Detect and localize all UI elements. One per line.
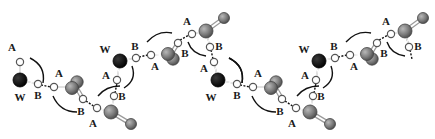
hydrogen-atom — [292, 104, 299, 111]
label-acceptor: A — [200, 62, 208, 74]
label-water: W — [100, 43, 111, 55]
heavy-atom — [361, 48, 374, 61]
hydrogen-atom — [373, 39, 380, 46]
heavy-atom — [303, 105, 317, 119]
label-donor: B — [181, 47, 189, 59]
hydrogen-atom — [233, 80, 240, 87]
label-donor: B — [131, 40, 139, 52]
hydrogen-bond — [240, 85, 250, 87]
interaction-arc — [53, 96, 77, 112]
water-oxygen-atom — [113, 54, 127, 68]
label-acceptor: A — [89, 117, 97, 129]
hydrogen-atom — [405, 43, 412, 50]
hydrogen-atom — [188, 30, 195, 37]
heavy-atom — [418, 13, 429, 24]
molecular-chain-diagram: AWBABABAWBABABAWBABABAWBABAB — [0, 0, 435, 139]
hydrogen-atom — [16, 58, 23, 65]
hydrogen-atom — [132, 54, 139, 61]
hydrogen-atom — [174, 39, 181, 46]
interaction-arc — [346, 32, 371, 42]
hydrogen-bond — [314, 83, 316, 93]
label-acceptor: A — [55, 67, 63, 79]
label-donor: B — [276, 105, 284, 117]
hydrogen-atom — [79, 95, 86, 102]
label-donor: B — [330, 40, 338, 52]
water-oxygen-atom — [13, 73, 27, 87]
interaction-arc — [124, 66, 133, 88]
label-donor: B — [77, 105, 85, 117]
hydrogen-atom — [387, 30, 394, 37]
heavy-atom — [325, 119, 336, 130]
label-acceptor: A — [8, 41, 16, 53]
interaction-arc — [252, 96, 276, 112]
hydrogen-atom — [309, 92, 316, 99]
hydrogen-bond — [139, 55, 148, 57]
hydrogen-atom — [147, 51, 154, 58]
heavy-atom — [265, 82, 278, 95]
hydrogen-bond — [180, 35, 189, 40]
label-acceptor: A — [102, 69, 110, 81]
label-donor: B — [380, 47, 388, 59]
heavy-atom — [162, 48, 175, 61]
label-donor: B — [215, 40, 223, 52]
hydrogen-atom — [113, 76, 120, 83]
water-oxygen-atom — [211, 73, 225, 87]
label-acceptor: A — [288, 117, 296, 129]
hydrogen-atom — [331, 54, 338, 61]
hydrogen-atom — [346, 51, 353, 58]
label-acceptor: A — [151, 60, 159, 72]
label-donor: B — [118, 90, 126, 102]
interaction-arc — [387, 42, 405, 56]
hydrogen-atom — [206, 43, 213, 50]
label-donor: B — [317, 90, 325, 102]
hydrogen-atom — [210, 58, 217, 65]
interaction-arc — [188, 42, 206, 56]
hydrogen-atom — [249, 83, 256, 90]
interaction-arc — [147, 32, 172, 42]
water-oxygen-atom — [312, 54, 326, 68]
label-water: W — [15, 91, 26, 103]
label-donor: B — [233, 89, 241, 101]
hydrogen-bond — [211, 50, 213, 59]
hydrogen-atom — [93, 104, 100, 111]
interaction-arc — [323, 66, 332, 88]
interaction-arc — [229, 58, 242, 83]
label-acceptor: A — [382, 15, 390, 27]
hydrogen-atom — [110, 92, 117, 99]
label-acceptor: A — [350, 60, 358, 72]
heavy-atom — [66, 82, 79, 95]
label-water: W — [206, 91, 217, 103]
label-acceptor: A — [254, 67, 262, 79]
heavy-atom — [219, 13, 230, 24]
hydrogen-bond — [379, 35, 388, 40]
hydrogen-bond — [338, 55, 347, 57]
label-donor: B — [34, 89, 42, 101]
hydrogen-atom — [34, 80, 41, 87]
hydrogen-bond — [41, 85, 51, 87]
label-acceptor: A — [183, 15, 191, 27]
heavy-atom — [126, 119, 137, 130]
hydrogen-atom — [312, 76, 319, 83]
label-water: W — [299, 43, 310, 55]
hydrogen-bond — [410, 50, 412, 59]
hydrogen-atom — [50, 83, 57, 90]
interaction-arc — [30, 58, 43, 83]
hydrogen-atom — [278, 95, 285, 102]
hydrogen-bond — [115, 83, 117, 93]
heavy-atom — [199, 24, 213, 38]
label-donor: B — [414, 40, 422, 52]
heavy-atom — [398, 24, 412, 38]
heavy-atom — [104, 105, 118, 119]
label-acceptor: A — [301, 69, 309, 81]
